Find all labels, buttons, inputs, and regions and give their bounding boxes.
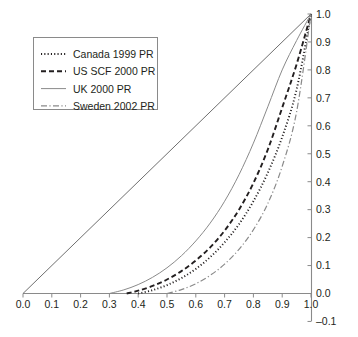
y-tick-label: 0.5 <box>316 148 331 160</box>
legend-label: US SCF 2000 PR <box>73 65 156 77</box>
x-tick-label: 0.8 <box>246 298 261 310</box>
y-tick-label: 1.0 <box>316 8 331 20</box>
lorenz-curve-chart: 0.00.10.20.30.40.50.60.70.80.91.0 –0.10.… <box>0 0 358 337</box>
chart-legend: Canada 1999 PRUS SCF 2000 PRUK 2000 PRSw… <box>34 38 158 112</box>
y-tick-label: –0.1 <box>316 315 337 327</box>
x-tick-label: 1.0 <box>304 298 319 310</box>
x-tick-label: 0.2 <box>73 298 88 310</box>
y-tick-label: 0.4 <box>316 176 331 188</box>
y-tick-label: 0.1 <box>316 259 331 271</box>
x-tick-label: 0.1 <box>44 298 59 310</box>
chart-plot-area: 0.00.10.20.30.40.50.60.70.80.91.0 –0.10.… <box>0 0 358 337</box>
legend-label: Canada 1999 PR <box>73 48 154 60</box>
y-tick-label: 0.2 <box>316 231 331 243</box>
x-tick-label: 0.3 <box>102 298 117 310</box>
y-tick-label: 0.0 <box>316 287 331 299</box>
legend-label: Sweden 2002 PR <box>73 100 155 112</box>
legend-label: UK 2000 PR <box>73 83 132 95</box>
y-tick-label: 0.7 <box>316 92 331 104</box>
x-tick-label: 0.5 <box>160 298 175 310</box>
y-tick-label: 0.9 <box>316 36 331 48</box>
x-tick-label: 0.0 <box>16 298 31 310</box>
x-tick-label: 0.9 <box>275 298 290 310</box>
x-tick-label: 0.6 <box>188 298 203 310</box>
x-tick-label: 0.7 <box>217 298 232 310</box>
y-tick-label: 0.6 <box>316 120 331 132</box>
y-tick-label: 0.8 <box>316 64 331 76</box>
y-tick-label: 0.3 <box>316 203 331 215</box>
x-tick-label: 0.4 <box>131 298 146 310</box>
